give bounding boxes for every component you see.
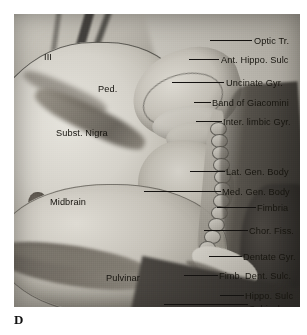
label-lat-gen-body: Lat. Gen. Body (226, 167, 289, 177)
label-third-nerve: III (44, 52, 52, 62)
label-fimb-dent-sulc: Fimb. Dent. Sulc. (219, 271, 291, 281)
leader-line-inter-limbic (196, 121, 222, 122)
label-peduncle: Ped. (98, 84, 117, 94)
label-midbrain: Midbrain (50, 197, 86, 207)
label-hippo-sulc: Hippo. Sulc (245, 291, 293, 301)
leader-line-optic-tr (210, 40, 252, 41)
figure-letter: D (14, 312, 23, 328)
label-subst-nigra: Subst. Nigra (56, 128, 108, 138)
figure-panel: IIIPed.Subst. NigraMidbrainPulvinarCrus … (0, 0, 307, 335)
leader-line-fimb-dent-sulc (184, 275, 218, 276)
label-optic-tr: Optic Tr. (254, 36, 289, 46)
label-band-giacomini: Band of Giacomini (212, 98, 289, 108)
label-subiculum: Subiculum (249, 304, 293, 307)
leader-line-ant-hippo-sulc (189, 59, 219, 60)
label-chor-fiss: Chor. Fiss. (249, 226, 294, 236)
label-dentate-gyr: Dentate Gyr. (243, 252, 296, 262)
label-med-gen-body: Med. Gen. Body (222, 187, 290, 197)
label-pulvinar: Pulvinar (106, 273, 140, 283)
anatomical-photograph: IIIPed.Subst. NigraMidbrainPulvinarCrus … (14, 14, 300, 307)
label-fimbria: Fimbria (257, 203, 288, 213)
leader-line-hippo-sulc (220, 295, 244, 296)
leader-line-fimbria (217, 207, 256, 208)
leader-line-med-gen-body (144, 191, 221, 192)
label-ant-hippo-sulc: Ant. Hippo. Sulc (221, 55, 288, 65)
leader-line-dentate-gyr (209, 256, 242, 257)
label-inter-limbic: Inter. limbic Gyr. (223, 117, 291, 127)
leader-line-lat-gen-body (190, 171, 225, 172)
leader-line-band-giacomini (194, 102, 211, 103)
leader-line-subiculum (164, 304, 248, 305)
leader-line-chor-fiss (204, 230, 248, 231)
leader-line-uncinate-gyr (172, 82, 224, 83)
label-uncinate-gyr: Uncinate Gyr. (226, 78, 283, 88)
